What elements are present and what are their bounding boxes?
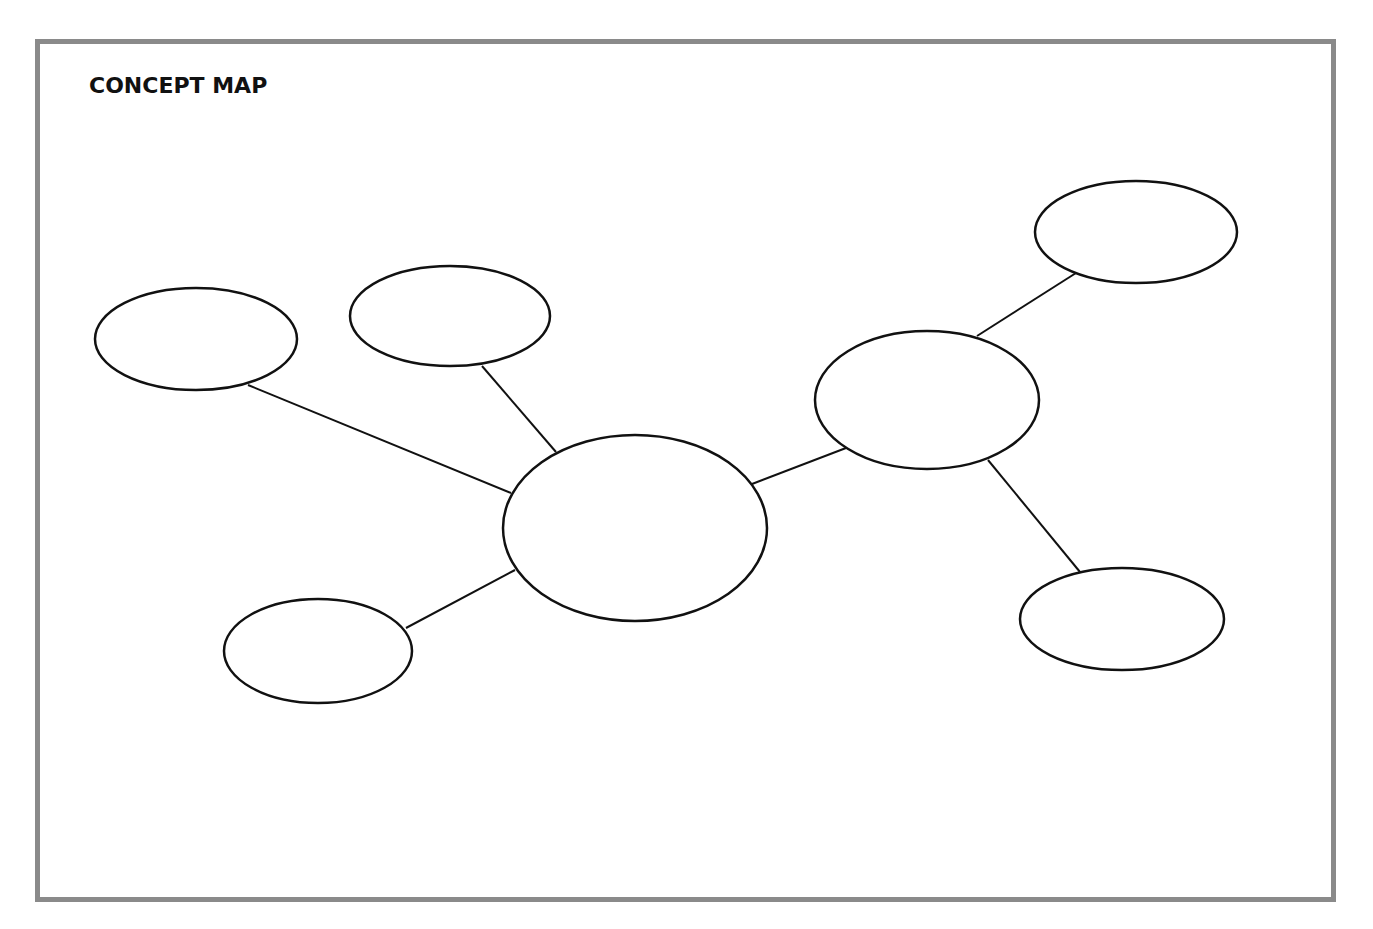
- node-left[interactable]: [95, 288, 297, 390]
- node-bottom-left[interactable]: [224, 599, 412, 703]
- node-bottom-right[interactable]: [1020, 568, 1224, 670]
- node-center[interactable]: [503, 435, 767, 621]
- node-top-right-shape[interactable]: [1035, 181, 1237, 283]
- edge-right-hub-top-right: [977, 273, 1076, 336]
- node-top-middle[interactable]: [350, 266, 550, 366]
- edge-center-bottom-left: [406, 570, 515, 628]
- node-top-right[interactable]: [1035, 181, 1237, 283]
- node-right-hub[interactable]: [815, 331, 1039, 469]
- node-right-hub-shape[interactable]: [815, 331, 1039, 469]
- concept-map-diagram: [0, 0, 1373, 929]
- nodes: [95, 181, 1237, 703]
- node-bottom-left-shape[interactable]: [224, 599, 412, 703]
- edge-center-right-hub: [752, 448, 846, 484]
- node-center-shape[interactable]: [503, 435, 767, 621]
- edge-right-hub-bottom-right: [988, 460, 1080, 572]
- edge-center-left: [248, 385, 511, 493]
- node-left-shape[interactable]: [95, 288, 297, 390]
- node-top-middle-shape[interactable]: [350, 266, 550, 366]
- node-bottom-right-shape[interactable]: [1020, 568, 1224, 670]
- edge-center-top-middle: [482, 366, 556, 452]
